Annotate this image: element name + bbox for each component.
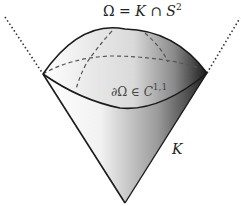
intersection-symbol: ∩ — [146, 3, 167, 19]
cone-diagram — [0, 0, 241, 206]
cone-extension-right — [207, 18, 240, 73]
k-symbol: K — [135, 3, 145, 19]
sphere-symbol: S — [166, 3, 176, 19]
boundary-regularity-label: ∂Ω ∈ C1,1 — [111, 82, 167, 99]
omega-symbol: Ω — [103, 3, 115, 19]
c-symbol: C — [144, 85, 153, 99]
equals-symbol: = — [115, 3, 136, 19]
omega-definition-label: Ω = K ∩ S2 — [103, 2, 182, 19]
regularity-exponent: 1,1 — [153, 82, 167, 92]
cone-extension-left — [5, 17, 43, 74]
sphere-dimension: 2 — [176, 2, 182, 12]
boundary-symbol: ∂Ω ∈ — [111, 85, 144, 99]
cone-label: K — [172, 141, 182, 157]
